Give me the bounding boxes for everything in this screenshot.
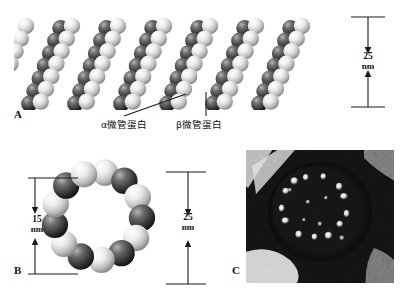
- alpha-tubulin-label: α微管蛋白: [101, 117, 147, 131]
- panel-label-c: C: [232, 264, 240, 276]
- panel-b-outer-scale-unit: nm: [175, 223, 201, 233]
- figure-microtubule-structure: α微管蛋白 β微管蛋白 25 nm A: [0, 0, 402, 293]
- panel-c: C: [246, 150, 394, 283]
- panel-label-a: A: [14, 108, 22, 120]
- electron-micrograph: [246, 150, 394, 283]
- panel-b-outer-scale-number: 25: [183, 212, 193, 222]
- panel-label-b: B: [14, 264, 22, 276]
- panel-b-inner-scale-unit: nm: [24, 225, 50, 235]
- panel-a-scale-unit: nm: [354, 62, 382, 72]
- panel-b: 15 nm 25 nm B: [0, 146, 240, 293]
- beta-tubulin-label: β微管蛋白: [176, 117, 222, 131]
- panel-b-outer-scale-value: 25 nm: [175, 213, 201, 232]
- panel-b-inner-scale-value: 15 nm: [24, 215, 50, 234]
- panel-a-scale-value: 25 nm: [354, 52, 382, 71]
- alpha-tubulin-leader: [124, 94, 186, 116]
- panel-a: α微管蛋白 β微管蛋白 25 nm A: [0, 0, 402, 146]
- panel-b-inner-scale-number: 15: [32, 214, 42, 224]
- panel-a-scale-number: 25: [363, 51, 373, 61]
